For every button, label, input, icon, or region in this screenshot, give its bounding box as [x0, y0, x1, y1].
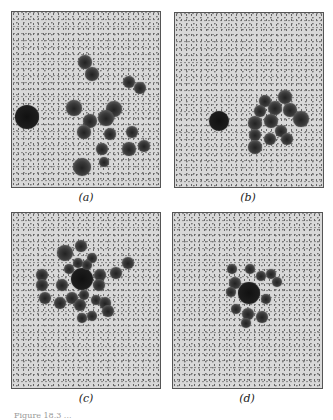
small-cell: [278, 90, 292, 104]
small-cell: [36, 279, 48, 291]
small-cell: [248, 140, 262, 154]
panel-a: [11, 11, 161, 188]
large-cell: [209, 111, 229, 131]
small-cell: [66, 100, 82, 116]
small-cell: [64, 264, 74, 274]
small-cell: [93, 279, 105, 291]
small-cell: [293, 111, 309, 127]
small-cell: [226, 287, 236, 297]
panel-label-c: (c): [79, 392, 94, 405]
small-cell: [256, 271, 266, 281]
small-cell: [241, 318, 251, 328]
small-cell: [231, 304, 241, 314]
panel-c: [11, 212, 161, 389]
small-cell: [77, 313, 87, 323]
figure-caption: Figure 18.3 ...: [14, 411, 71, 420]
small-cell: [126, 126, 138, 138]
large-cell: [238, 282, 260, 304]
small-cell: [134, 82, 146, 94]
small-cell: [87, 311, 97, 321]
small-cell: [79, 290, 89, 300]
small-cell: [227, 264, 237, 274]
small-cell: [272, 277, 282, 287]
small-cell: [73, 158, 91, 176]
small-cell: [54, 297, 66, 309]
small-cell: [99, 157, 109, 167]
small-cell: [96, 143, 108, 155]
small-cell: [110, 267, 122, 279]
small-cell: [268, 101, 282, 115]
small-cell: [98, 110, 114, 126]
small-cell: [281, 133, 293, 145]
panel-b: [174, 12, 324, 188]
small-cell: [264, 133, 276, 145]
small-cell: [104, 128, 116, 140]
small-cell: [82, 260, 92, 270]
small-cell: [248, 116, 262, 130]
panel-label-b: (b): [240, 191, 256, 204]
small-cell: [39, 292, 51, 304]
small-cell: [74, 299, 86, 311]
small-cell: [138, 140, 150, 152]
small-cell: [256, 311, 268, 323]
small-cell: [77, 125, 91, 139]
panel-d: [172, 212, 323, 389]
small-cell: [245, 264, 255, 274]
small-cell: [75, 240, 87, 252]
small-cell: [122, 142, 136, 156]
large-cell: [71, 268, 93, 290]
small-cell: [85, 67, 99, 81]
small-cell: [102, 305, 114, 317]
panel-label-a: (a): [78, 191, 93, 204]
small-cell: [122, 257, 134, 269]
small-cell: [57, 245, 73, 261]
small-cell: [261, 294, 271, 304]
panel-label-d: (d): [239, 392, 255, 405]
small-cell: [56, 279, 68, 291]
large-cell: [15, 105, 39, 129]
